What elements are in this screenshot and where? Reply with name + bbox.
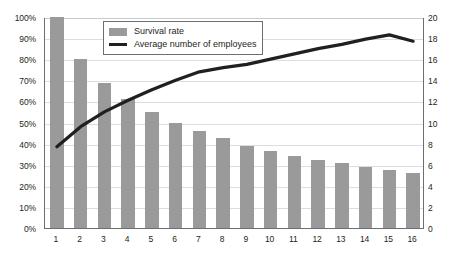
y-axis-left-tick: 100% <box>15 13 36 23</box>
y-axis-left-tick: 40% <box>19 140 36 150</box>
bar-swatch-icon <box>109 28 127 36</box>
y-axis-right-tick: 20 <box>428 13 437 23</box>
x-axis-tick: 9 <box>244 234 249 244</box>
x-axis: 12345678910111213141516 <box>44 231 424 251</box>
x-axis-tick: 5 <box>149 234 154 244</box>
chart-legend: Survival rate Average number of employee… <box>103 21 263 55</box>
legend-item-average-employees[interactable]: Average number of employees <box>109 38 256 51</box>
y-axis-left-tick: 20% <box>19 182 36 192</box>
y-axis-left-tick: 70% <box>19 76 36 86</box>
y-axis-left-tick: 60% <box>19 97 36 107</box>
x-axis-tick: 7 <box>196 234 201 244</box>
y-axis-right-tick: 2 <box>428 203 433 213</box>
y-axis-left-tick: 10% <box>19 203 36 213</box>
x-axis-tick: 10 <box>265 234 274 244</box>
y-axis-left-tick: 0% <box>24 224 36 234</box>
y-axis-right-tick: 14 <box>428 76 437 86</box>
chart-container: 0%10%20%30%40%50%60%70%80%90%100% 024681… <box>0 0 462 263</box>
y-axis-left-tick: 80% <box>19 55 36 65</box>
legend-item-survival-rate[interactable]: Survival rate <box>109 25 256 38</box>
legend-label-average-employees: Average number of employees <box>134 40 256 49</box>
x-axis-tick: 4 <box>125 234 130 244</box>
y-axis-right-tick: 0 <box>428 224 433 234</box>
x-axis-tick: 2 <box>77 234 82 244</box>
y-axis-right: 02468101214161820 <box>428 18 458 229</box>
y-axis-right-tick: 6 <box>428 161 433 171</box>
x-axis-tick: 16 <box>407 234 416 244</box>
y-axis-left-tick: 50% <box>19 119 36 129</box>
y-axis-right-tick: 18 <box>428 34 437 44</box>
y-axis-left-tick: 90% <box>19 34 36 44</box>
y-axis-right-tick: 4 <box>428 182 433 192</box>
y-axis-right-tick: 12 <box>428 97 437 107</box>
x-axis-tick: 1 <box>54 234 59 244</box>
y-axis-left-tick: 30% <box>19 161 36 171</box>
x-axis-tick: 6 <box>172 234 177 244</box>
line-swatch-icon <box>109 43 127 46</box>
y-axis-right-tick: 8 <box>428 140 433 150</box>
x-axis-tick: 8 <box>220 234 225 244</box>
x-axis-tick: 14 <box>360 234 369 244</box>
y-axis-right-tick: 16 <box>428 55 437 65</box>
y-axis-right-tick: 10 <box>428 119 437 129</box>
y-axis-left: 0%10%20%30%40%50%60%70%80%90%100% <box>0 18 40 229</box>
x-axis-tick: 12 <box>312 234 321 244</box>
x-axis-tick: 15 <box>384 234 393 244</box>
x-axis-tick: 11 <box>289 234 298 244</box>
x-axis-tick: 13 <box>336 234 345 244</box>
x-axis-tick: 3 <box>101 234 106 244</box>
legend-label-survival-rate: Survival rate <box>134 27 184 36</box>
